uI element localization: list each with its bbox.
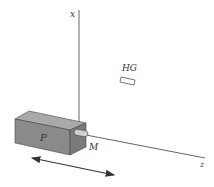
hg-label: HG (121, 63, 137, 73)
connector-m-label: M (88, 142, 99, 152)
diagram-canvas: x z HG P M (0, 0, 214, 187)
hg-target-rectangle (120, 77, 135, 85)
box-p-label: P (39, 132, 47, 143)
x-axis-label: x (70, 9, 75, 19)
z-axis (86, 135, 205, 158)
z-axis-label: z (199, 160, 205, 169)
motion-double-arrow (32, 158, 114, 175)
